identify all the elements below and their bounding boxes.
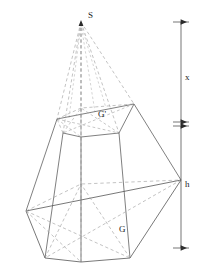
apex-hatch-3 [81,24,106,108]
lateral-edge-front-left [45,133,63,258]
bottom-diag-4 [26,211,81,262]
bottom-hexagon-visible-edges [26,180,181,262]
lateral-edge-left [26,119,57,211]
label-bottom-base-g: G [119,225,126,234]
apex-hatch-1 [69,24,81,118]
top-hex-close-edge [57,119,63,133]
apex-edge-to-top-v1 [57,22,81,119]
apex-hatch-2 [81,24,95,112]
label-dimension-x: x [185,73,190,82]
top-diag-5 [63,108,81,133]
label-top-base-g: G' [98,110,106,119]
apex-marker [79,20,84,26]
top-hexagon-hidden-edges [57,104,134,133]
apex-edge-to-top-v3 [81,22,134,104]
lateral-edge-right [134,104,181,180]
diagram-page: S G' G x h [0,0,212,278]
top-face-diagonals [57,104,134,137]
bottom-hex-front-chain [26,180,181,262]
apex-ray-hatches [69,24,106,118]
geometry-figure [0,0,212,278]
lateral-edge-front-right [119,133,130,258]
label-dimension-h: h [185,180,190,189]
apex-dashed-edges [57,22,134,137]
bottom-face-diagonals [26,180,181,262]
label-apex-s: S [88,11,93,20]
